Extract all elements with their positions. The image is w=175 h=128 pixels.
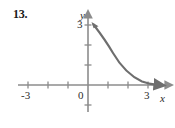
x-tick-label-3: 3: [144, 89, 150, 101]
origin-label: 0: [78, 89, 84, 101]
curve-upper-arrowhead: [92, 22, 99, 28]
y-tick-label-3: 3: [77, 18, 83, 30]
x-axis-label: x: [160, 92, 165, 104]
coordinate-plot: [0, 0, 175, 128]
exponential-decay-curve: [94, 25, 157, 85]
figure-container: 13. y x 3 -3 3 0: [0, 0, 175, 128]
x-tick-label-neg3: -3: [21, 89, 30, 101]
